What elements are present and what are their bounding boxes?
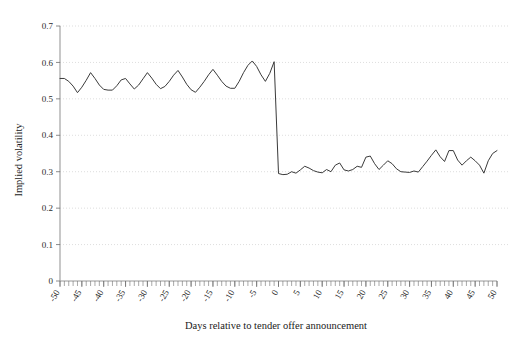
y-tick-label: 0.1	[42, 240, 53, 250]
x-tick-label: 45	[464, 288, 477, 301]
y-tick-label: 0.4	[42, 130, 54, 140]
x-axis	[60, 281, 497, 287]
x-tick-label: 10	[311, 288, 324, 301]
x-tick-label: -10	[222, 288, 237, 304]
x-tick-label: 0	[269, 288, 280, 297]
x-tick-label: -45	[69, 288, 84, 304]
y-tick-label: 0.3	[42, 167, 54, 177]
series-line-implied-volatility	[60, 61, 497, 175]
y-tick-label: 0.5	[42, 94, 54, 104]
y-tick-label: 0.7	[42, 21, 54, 31]
chart-figure: 00.10.20.30.40.50.60.7 -50-45-40-35-30-2…	[0, 0, 515, 341]
y-tick-label: 0.6	[42, 58, 54, 68]
x-tick-label: -50	[47, 288, 62, 304]
x-tick-labels: -50-45-40-35-30-25-20-15-10-505101520253…	[47, 288, 499, 304]
y-tick-labels: 00.10.20.30.40.50.60.7	[42, 21, 54, 286]
data-series-layer	[60, 61, 497, 175]
y-axis-title: Implied volatility	[13, 123, 24, 197]
x-tick-label: -35	[113, 288, 128, 304]
x-tick-label: -20	[178, 288, 193, 304]
x-tick-label: 25	[376, 288, 389, 301]
y-axis	[56, 26, 60, 281]
x-tick-label: 30	[398, 288, 411, 301]
y-tick-label: 0.2	[42, 203, 53, 213]
y-tick-label: 0	[49, 276, 54, 286]
x-tick-label: 50	[486, 288, 499, 301]
x-tick-label: 15	[333, 288, 346, 301]
x-tick-label: -40	[91, 288, 106, 304]
x-tick-label: 35	[420, 288, 433, 301]
implied-volatility-line-chart: 00.10.20.30.40.50.60.7 -50-45-40-35-30-2…	[0, 0, 515, 341]
x-tick-label: 20	[354, 288, 367, 301]
x-tick-label: -25	[156, 288, 171, 304]
x-tick-label: 40	[442, 288, 455, 301]
x-axis-title: Days relative to tender offer announceme…	[185, 320, 367, 331]
x-tick-label: -30	[134, 288, 149, 304]
x-tick-label: -5	[246, 288, 259, 300]
gridlines-layer	[60, 26, 509, 245]
x-tick-label: 5	[291, 288, 302, 297]
x-tick-label: -15	[200, 288, 215, 304]
